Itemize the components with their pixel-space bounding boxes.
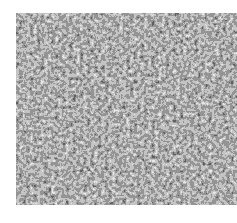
noise-layer [16, 13, 237, 205]
texture-svg [16, 13, 237, 205]
speckle-texture-image [16, 13, 237, 205]
